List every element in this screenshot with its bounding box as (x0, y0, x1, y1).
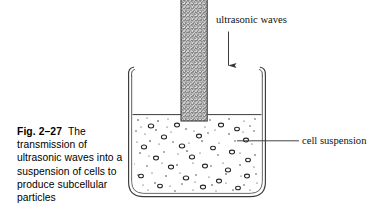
figure-caption: Fig. 2–27The transmission of ultrasonic … (17, 125, 133, 204)
figure-page: ultrasonic waves cell suspension Fig. 2–… (0, 0, 389, 217)
ultrasonic-probe (181, 0, 207, 121)
cell-suspension-liquid (133, 115, 262, 193)
label-ultrasonic-waves: ultrasonic waves (216, 14, 287, 25)
caption-text: The transmission of ultrasonic waves int… (17, 126, 122, 203)
label-cell-suspension: cell suspension (302, 135, 366, 146)
figure-number: Fig. 2–27 (17, 126, 62, 137)
